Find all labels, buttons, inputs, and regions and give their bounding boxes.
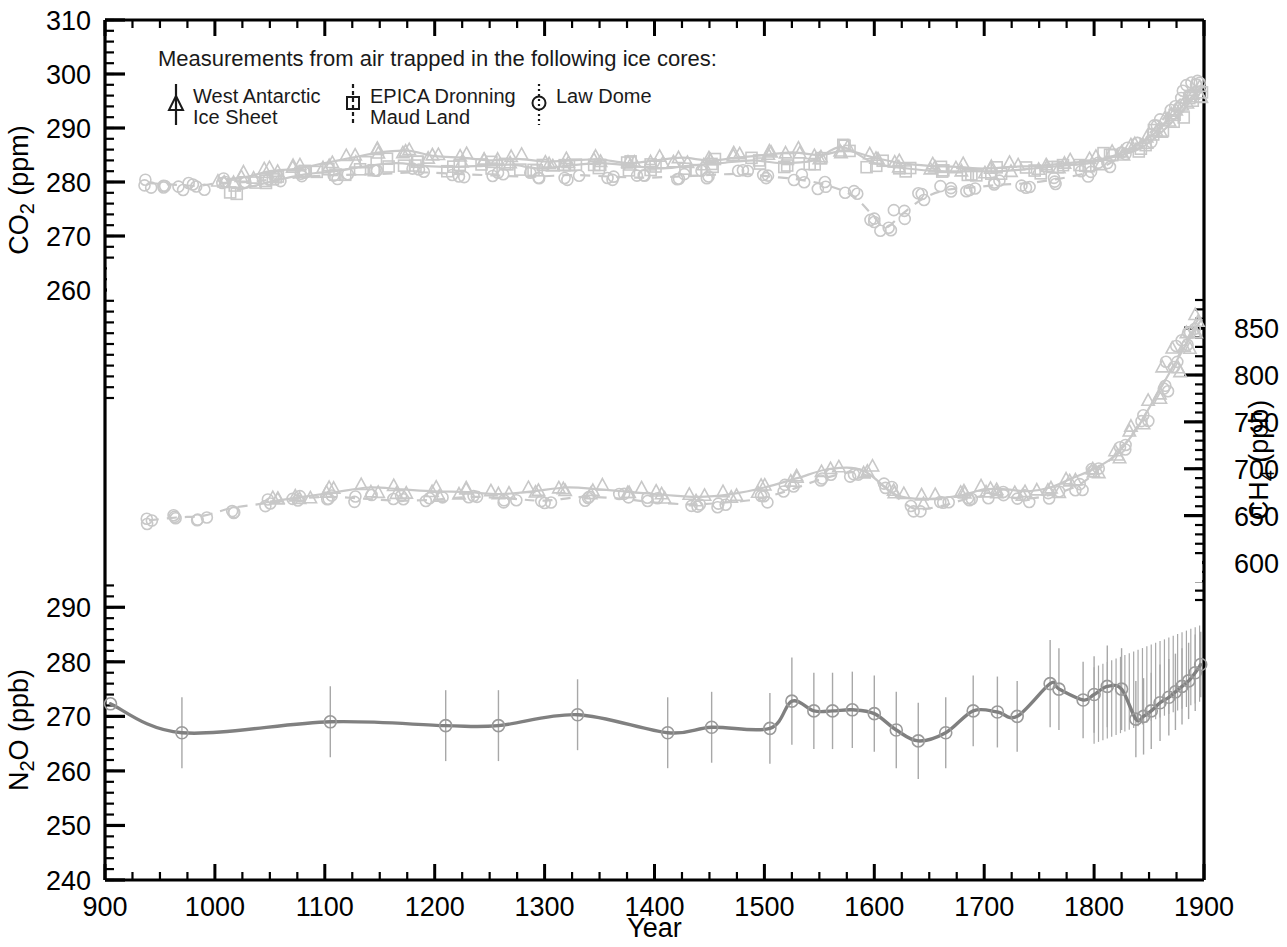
y-tick-label-co2: 270 (46, 222, 91, 252)
figure-root: 9001000110012001300140015001600170018001… (0, 0, 1287, 947)
data-point-co2 (515, 148, 527, 159)
y-axis-title-co2: CO2 (ppm) (4, 125, 38, 255)
legend-item-lawdome[interactable]: Law Dome (533, 84, 652, 125)
data-point-co2 (865, 214, 876, 225)
x-axis-title: Year (627, 913, 682, 943)
data-point-co2 (885, 225, 896, 236)
y-tick-label-co2: 300 (46, 60, 91, 90)
y-axis-title-ch4: CH4 (ppb) (1244, 400, 1278, 521)
legend-item-wais[interactable]: West Antarctic Ice Sheet (169, 84, 320, 128)
panel-gap-upper (107, 260, 1202, 296)
x-tick-label: 1200 (405, 892, 465, 922)
y-tick-label-n2o: 250 (46, 811, 91, 841)
data-point-co2 (888, 205, 899, 216)
x-tick-label: 1500 (734, 892, 794, 922)
y-tick-label-ch4: 800 (1234, 361, 1279, 391)
x-tick-label: 900 (82, 892, 127, 922)
axis-layer (105, 20, 1204, 880)
legend-label-epica-line2: Maud Land (370, 106, 470, 128)
legend-item-epica[interactable]: EPICA Dronning Maud Land (347, 84, 516, 128)
data-point-ch4 (511, 495, 522, 506)
x-tick-label: 1900 (1174, 892, 1234, 922)
series-line-ch4-0 (270, 319, 1202, 502)
data-layer (104, 75, 1207, 779)
data-point-co2 (812, 184, 823, 195)
y-tick-label-n2o: 270 (46, 702, 91, 732)
y-tick-label-ch4: 850 (1234, 314, 1279, 344)
data-point-ch4 (424, 493, 435, 504)
greenhouse-gas-chart: 9001000110012001300140015001600170018001… (0, 0, 1287, 947)
y-tick-label-co2: 280 (46, 168, 91, 198)
x-tick-label: 1600 (844, 892, 904, 922)
legend-label-epica-line1: EPICA Dronning (370, 85, 516, 107)
circle-marker-icon (533, 84, 546, 125)
y-tick-label-co2: 260 (46, 276, 91, 306)
x-tick-label: 1100 (296, 892, 354, 922)
x-tick-label: 1700 (954, 892, 1014, 922)
svg-text:CH4 (ppb): CH4 (ppb) (1244, 400, 1278, 521)
series-line-n2o (111, 665, 1201, 741)
y-tick-label-ch4: 600 (1234, 549, 1279, 579)
y-tick-label-n2o: 260 (46, 757, 91, 787)
legend-label-wais-line1: West Antarctic (193, 85, 320, 107)
panel-gap-lower (107, 560, 1202, 582)
data-point-co2 (899, 213, 910, 224)
legend-label-wais-line2: Ice Sheet (193, 106, 278, 128)
triangle-marker-icon (169, 84, 183, 125)
data-point-co2 (852, 188, 863, 199)
y-tick-label-n2o: 290 (46, 593, 91, 623)
data-point-ch4 (635, 481, 647, 492)
x-tick-label: 1800 (1064, 892, 1124, 922)
x-tick-label: 1300 (515, 892, 575, 922)
data-point-co2 (799, 177, 810, 188)
svg-text:CO2 (ppm): CO2 (ppm) (4, 125, 38, 255)
data-point-co2 (935, 181, 946, 192)
y-tick-label-co2: 310 (46, 6, 91, 36)
legend-heading: Measurements from air trapped in the fol… (158, 46, 717, 71)
y-tick-label-n2o: 240 (46, 866, 91, 896)
y-tick-label-co2: 290 (46, 114, 91, 144)
legend: Measurements from air trapped in the fol… (158, 46, 717, 128)
svg-text:N2O (ppb): N2O (ppb) (4, 669, 38, 791)
y-tick-label-n2o: 280 (46, 648, 91, 678)
x-tick-label: 1000 (185, 892, 245, 922)
series-group-n2o (104, 625, 1206, 779)
square-marker-icon (347, 84, 359, 125)
series-group-ch4 (141, 308, 1204, 529)
data-point-co2 (796, 169, 807, 180)
legend-label-lawdome: Law Dome (556, 85, 652, 107)
y-axis-title-n2o: N2O (ppb) (4, 669, 38, 791)
